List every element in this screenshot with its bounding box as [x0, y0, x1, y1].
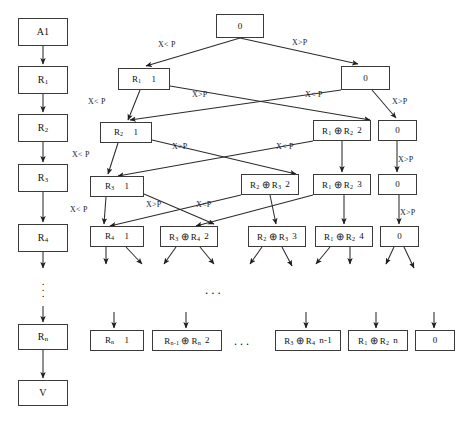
chain-r1-label: R1 — [38, 75, 48, 85]
edge-label-0r1-left: X< P — [305, 90, 323, 99]
chain-v-label: V — [39, 388, 46, 398]
node-r2r3-3-count: 3 — [292, 232, 297, 241]
node-r1r2-n[interactable]: R1⊕R2 n — [348, 330, 408, 351]
node-r3r4-n1-label: R3⊕R4 — [284, 336, 315, 346]
node-r2r3-2-count: 2 — [285, 180, 290, 189]
node-r1r2-4-count: 4 — [359, 232, 364, 241]
node-r1-1[interactable]: R1 1 — [118, 68, 170, 90]
node-r1r2-4-label: R1⊕R2 — [324, 232, 355, 242]
chain-vertical-ellipsis: ... — [36, 278, 50, 296]
node-rn1rn-2[interactable]: Rn-1⊕Rn 2 — [152, 330, 222, 351]
edge-label-mid-left: X< P — [276, 142, 294, 151]
chain-r2[interactable]: R2 — [18, 114, 68, 142]
chain-rn-label: Rn — [38, 332, 48, 342]
node-r3-1-label: R3 — [105, 182, 114, 191]
node-r1-1-label: R1 — [132, 75, 141, 84]
node-0-r4[interactable]: 0 — [380, 226, 419, 247]
node-r4-1[interactable]: R4 1 — [90, 226, 144, 247]
node-r4-1-label: R4 — [105, 232, 114, 241]
edge-label-r1-right: X>P — [192, 90, 207, 99]
node-0-r1[interactable]: 0 — [341, 66, 390, 90]
edge-label-mid2-left: X<P — [196, 200, 211, 209]
node-r1r2-2[interactable]: R1⊕R2 2 — [313, 120, 371, 141]
edge-label-0r2-right: X>P — [398, 155, 413, 164]
chain-rn[interactable]: Rn — [18, 324, 68, 350]
node-0-rn[interactable]: 0 — [415, 330, 455, 351]
node-r3r4-2-count: 2 — [204, 232, 209, 241]
node-r1r2-3-count: 3 — [357, 180, 362, 189]
node-rn-1-count: 1 — [124, 336, 129, 345]
node-root-0-label: 0 — [238, 22, 243, 31]
node-r2r3-2-label: R2⊕R3 — [250, 180, 281, 190]
chain-r2-label: R2 — [38, 123, 48, 133]
node-root-0[interactable]: 0 — [216, 14, 264, 38]
node-r2-1[interactable]: R2 1 — [100, 122, 152, 143]
node-r3-1[interactable]: R3 1 — [90, 176, 144, 197]
edge-label-r3-left: X< P — [70, 205, 88, 214]
edge-label-r2-left: X< P — [72, 150, 90, 159]
node-rn-1[interactable]: Rn 1 — [90, 330, 144, 351]
node-r1r2-n-count: n — [393, 336, 398, 345]
node-r1r2-2-count: 2 — [357, 126, 362, 135]
node-r1r2-4[interactable]: R1⊕R2 4 — [315, 226, 373, 247]
node-r1r2-n-label: R1⊕R2 — [358, 336, 389, 346]
node-0-r1-label: 0 — [363, 74, 368, 83]
node-0-r2[interactable]: 0 — [378, 120, 417, 141]
node-r3r4-2[interactable]: R3⊕R4 2 — [160, 226, 218, 247]
edge-label-r2-right: X>P — [172, 142, 187, 151]
node-r3r4-2-label: R3⊕R4 — [169, 232, 200, 242]
edge-label-r3-right: X>P — [146, 200, 161, 209]
node-r1r2-3-label: R1⊕R2 — [322, 180, 353, 190]
node-r2r3-3[interactable]: R2⊕R3 3 — [248, 226, 306, 247]
node-r2r3-3-label: R2⊕R3 — [257, 232, 288, 242]
node-0-r4-label: 0 — [397, 232, 402, 241]
node-0-rn-label: 0 — [433, 336, 438, 345]
chain-r3-label: R3 — [38, 173, 48, 183]
node-r3r4-n1[interactable]: R3⊕R4 n-1 — [275, 330, 341, 351]
node-r1-1-count: 1 — [151, 75, 156, 84]
node-r1r2-2-label: R1⊕R2 — [322, 126, 353, 136]
chain-r1[interactable]: R1 — [18, 66, 68, 94]
edge-label-0r3-right: X>P — [400, 208, 415, 217]
node-r2-1-count: 1 — [133, 128, 138, 137]
node-0-r3-label: 0 — [395, 180, 400, 189]
node-rn1rn-2-count: 2 — [205, 336, 210, 345]
node-0-r2-label: 0 — [395, 126, 400, 135]
node-rn-1-label: Rn — [105, 336, 114, 345]
bottom-row-ellipsis: ... — [234, 334, 252, 349]
node-0-r3[interactable]: 0 — [378, 174, 417, 195]
chain-a1[interactable]: A1 — [18, 18, 68, 46]
edge-label-root-left: X< P — [158, 40, 176, 49]
node-r2r3-2[interactable]: R2⊕R3 2 — [241, 174, 299, 195]
chain-a1-label: A1 — [37, 27, 50, 37]
diagram-canvas: A1 R1 R2 R3 R4 ... Rn V 0 R1 1 0 R2 1 R1… — [0, 0, 471, 427]
node-r1r2-3[interactable]: R1⊕R2 3 — [313, 174, 371, 195]
node-r4-1-count: 1 — [124, 232, 129, 241]
node-r3r4-n1-count: n-1 — [319, 336, 332, 345]
chain-r4[interactable]: R4 — [18, 224, 68, 252]
chain-v[interactable]: V — [18, 380, 68, 406]
edge-label-root-right: X>P — [292, 38, 307, 47]
chain-r3[interactable]: R3 — [18, 164, 68, 192]
chain-r4-label: R4 — [38, 233, 48, 243]
node-r3-1-count: 1 — [124, 182, 129, 191]
node-rn1rn-2-label: Rn-1⊕Rn — [164, 336, 201, 346]
edge-label-r1-left: X< P — [88, 97, 106, 106]
node-r2-1-label: R2 — [114, 128, 123, 137]
edge-label-0r1-right: X>P — [392, 97, 407, 106]
middle-ellipsis: ... — [205, 282, 224, 298]
